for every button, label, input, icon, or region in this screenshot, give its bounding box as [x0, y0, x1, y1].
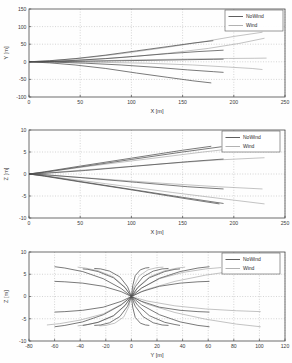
- trajectory-wind: [29, 32, 262, 62]
- trajectory-nowind: [29, 59, 224, 62]
- legend-label-nowind: NoWind: [243, 256, 261, 262]
- x-tick-label: 250: [281, 99, 290, 105]
- y-tick-label: -10: [19, 215, 27, 221]
- x-tick-label: 60: [205, 343, 211, 349]
- x-tick-label: 200: [230, 99, 239, 105]
- x-tick-label: -80: [25, 343, 33, 349]
- legend-label-wind: Wind: [243, 265, 255, 271]
- x-tick-label: 100: [127, 220, 136, 226]
- y-tick-label: 0: [24, 59, 27, 65]
- legend-label-nowind: NoWind: [243, 134, 261, 140]
- x-tick-label: -20: [102, 343, 110, 349]
- x-tick-label: 100: [255, 343, 264, 349]
- x-tick-label: 0: [130, 343, 133, 349]
- y-tick-label: 0: [24, 293, 27, 299]
- trajectory-nowind: [29, 147, 222, 174]
- trajectory-wind: [29, 174, 265, 204]
- x-tick-label: 0: [28, 220, 31, 226]
- x-tick-label: 50: [77, 220, 83, 226]
- y-tick-label: 0: [24, 171, 27, 177]
- trajectory-wind: [29, 62, 262, 70]
- y-tick-label: 10: [21, 249, 27, 255]
- y-tick-label: 100: [18, 24, 27, 30]
- x-tick-label: -40: [77, 343, 85, 349]
- plot-panel-z-vs-x: 050100150200250-10-50510X [m]Z [m]NoWind…: [0, 121, 292, 240]
- x-tick-label: 100: [127, 99, 136, 105]
- trajectory-wind: [78, 297, 132, 326]
- matlab-figure: 050100150200250-100-50050100150X [m]Y [m…: [0, 0, 292, 363]
- y-tick-label: 150: [18, 6, 27, 12]
- y-tick-label: 50: [21, 41, 27, 47]
- y-tick-label: 5: [24, 271, 27, 277]
- y-tick-label: -5: [22, 193, 27, 199]
- x-tick-label: 150: [178, 220, 187, 226]
- x-tick-label: 20: [154, 343, 160, 349]
- legend-label-wind: Wind: [243, 143, 255, 149]
- x-axis-title: Y [m]: [151, 352, 164, 358]
- trajectory-nowind: [29, 174, 219, 204]
- x-tick-label: -60: [51, 343, 59, 349]
- y-tick-label: -10: [19, 338, 27, 344]
- trajectory-nowind: [131, 281, 209, 296]
- x-axis-title: X [m]: [150, 229, 163, 235]
- plot-panel-z-vs-y: -80-60-40-20020406080100120-10-50510Y [m…: [0, 243, 292, 363]
- y-tick-label: -5: [22, 316, 27, 322]
- legend-label-wind: Wind: [246, 22, 258, 28]
- y-tick-label: -100: [16, 94, 26, 100]
- y-tick-label: -50: [19, 76, 27, 82]
- x-tick-label: 40: [180, 343, 186, 349]
- x-tick-label: 250: [281, 220, 290, 226]
- x-tick-label: 50: [77, 99, 83, 105]
- x-axis-title: X [m]: [150, 108, 163, 114]
- plot-panel-y-vs-x: 050100150200250-100-50050100150X [m]Y [m…: [0, 0, 292, 119]
- y-axis-title: Z [m]: [3, 290, 9, 303]
- y-axis-title: Y [m]: [3, 46, 9, 59]
- trajectory-nowind: [29, 146, 211, 174]
- y-axis-title: Z [m]: [3, 167, 9, 180]
- x-tick-label: 150: [178, 99, 187, 105]
- y-tick-label: 10: [21, 127, 27, 133]
- x-tick-label: 0: [28, 99, 31, 105]
- x-tick-label: 80: [231, 343, 237, 349]
- y-tick-label: 5: [24, 149, 27, 155]
- trajectory-wind: [29, 158, 265, 174]
- x-tick-label: 200: [230, 220, 239, 226]
- legend-label-nowind: NoWind: [246, 13, 264, 19]
- x-tick-label: 120: [281, 343, 290, 349]
